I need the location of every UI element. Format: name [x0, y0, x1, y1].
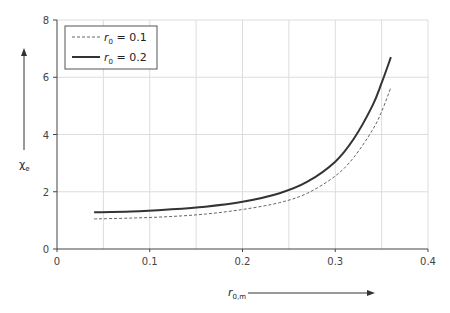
- svg-text:0.2: 0.2: [235, 256, 251, 267]
- arrow-right-icon: [367, 290, 375, 296]
- arrow-up-icon: [21, 48, 27, 56]
- svg-text:6: 6: [43, 72, 49, 83]
- svg-text:0.1: 0.1: [142, 256, 158, 267]
- y-axis-label: χe: [19, 48, 30, 173]
- svg-text:2: 2: [43, 187, 49, 198]
- legend: r0 = 0.1 r0 = 0.2: [65, 26, 157, 69]
- svg-text:8: 8: [43, 15, 49, 26]
- svg-text:0: 0: [43, 244, 49, 255]
- svg-text:0.4: 0.4: [420, 256, 436, 267]
- chart: 0246800.10.20.30.4 r0 = 0.1 r0 = 0.2 χe …: [0, 0, 450, 313]
- svg-text:r0,m: r0,m: [228, 286, 246, 301]
- svg-text:4: 4: [43, 130, 49, 141]
- svg-text:0.3: 0.3: [327, 256, 343, 267]
- svg-text:0: 0: [54, 256, 60, 267]
- svg-text:χe: χe: [19, 158, 30, 173]
- x-axis-label: r0,m: [228, 286, 375, 301]
